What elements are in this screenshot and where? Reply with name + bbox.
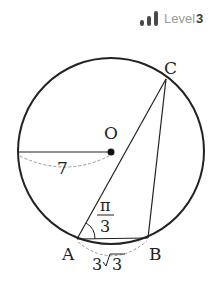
radius-label: 7 <box>57 158 68 178</box>
angle-denominator: 3 <box>100 217 110 236</box>
segment-bc <box>148 79 166 238</box>
angle-numerator: π <box>100 196 111 215</box>
label-a: A <box>61 244 75 264</box>
label-o: O <box>104 123 118 143</box>
label-c: C <box>164 58 177 78</box>
center-point-dot <box>108 149 115 156</box>
chord-radicand: 3 <box>112 255 122 274</box>
segment-ab <box>77 238 148 239</box>
label-b: B <box>149 244 162 264</box>
segment-ac <box>77 79 166 239</box>
circle-triangle-diagram: O C A B 7 π 3 3 3 <box>0 0 224 296</box>
chord-coef: 3 <box>92 255 102 274</box>
angle-arc-a <box>86 223 95 239</box>
